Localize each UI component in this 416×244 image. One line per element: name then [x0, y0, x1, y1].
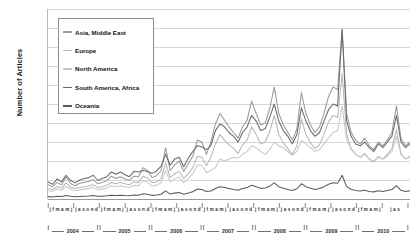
month-group-4: j f m a m j	[152, 203, 176, 215]
gridline-0	[48, 199, 410, 200]
month-axis-separator: |	[407, 203, 409, 215]
month-group-10: j f m a m j	[306, 203, 330, 215]
month-group-11: j a s o n d	[332, 203, 356, 215]
month-group-0: j f m a m j	[49, 203, 73, 215]
legend-swatch-icon	[63, 87, 72, 89]
legend-label: North America	[75, 65, 117, 72]
year-rule	[155, 231, 167, 232]
month-group-7: j a s o n d	[229, 203, 253, 215]
legend-label: Asia, Middle East	[75, 29, 126, 36]
year-rule	[237, 231, 249, 232]
year-label: 2009	[324, 228, 338, 234]
year-rule	[340, 231, 352, 232]
month-group-1: j a s o n d	[75, 203, 99, 215]
legend-swatch-icon	[63, 68, 72, 70]
year-rule	[207, 231, 219, 232]
year-label: 2005	[118, 228, 132, 234]
year-rule	[52, 231, 64, 232]
legend-swatch-icon	[63, 50, 72, 52]
year-label: 2007	[221, 228, 235, 234]
legend-item-2[interactable]: North America	[59, 60, 153, 78]
year-rule	[82, 231, 94, 232]
year-cell-2006: 2006	[153, 224, 200, 238]
year-label: 2006	[169, 228, 183, 234]
year-cell-2009: 2009	[308, 224, 355, 238]
month-group-2: j f m a m j	[100, 203, 124, 215]
legend-item-3[interactable]: South America, Africa	[59, 78, 153, 96]
year-rule	[392, 231, 404, 232]
legend-label: Oceania	[75, 102, 99, 109]
year-rule	[258, 231, 270, 232]
year-cell-2004: 2004	[50, 224, 97, 238]
year-label: 2008	[273, 228, 287, 234]
year-rule	[289, 231, 301, 232]
year-rule	[310, 231, 322, 232]
year-label: 2010	[376, 228, 390, 234]
year-axis: |2004||2005||2006||2007||2008||2009||201…	[47, 224, 409, 238]
year-label: 2004	[66, 228, 80, 234]
month-group-13: j a s	[383, 203, 407, 215]
year-rule	[103, 231, 115, 232]
month-group-9: j a s o n d	[280, 203, 304, 215]
month-group-6: j f m a m j	[203, 203, 227, 215]
month-group-5: j a s o n d	[178, 203, 202, 215]
year-cell-2010: 2010	[360, 224, 407, 238]
year-rule	[134, 231, 146, 232]
legend: Asia, Middle EastEuropeNorth AmericaSout…	[58, 18, 154, 114]
legend-label: South America, Africa	[75, 84, 139, 91]
year-rule	[362, 231, 374, 232]
y-axis-title: Number of Articles	[15, 28, 24, 138]
year-cell-2005: 2005	[101, 224, 148, 238]
legend-item-4[interactable]: Oceania	[59, 97, 153, 115]
legend-item-1[interactable]: Europe	[59, 41, 153, 59]
month-axis: |j f m a m j|j a s o n d|j f m a m j|j a…	[47, 203, 409, 215]
month-group-12: j f m a m j	[358, 203, 382, 215]
legend-swatch-icon	[63, 105, 72, 107]
chart-figure: Number of Articles 020040060080010001200…	[0, 0, 416, 244]
year-axis-separator: |	[407, 224, 410, 238]
legend-swatch-icon	[63, 31, 72, 33]
legend-item-0[interactable]: Asia, Middle East	[59, 23, 153, 41]
legend-label: Europe	[75, 47, 96, 54]
year-cell-2007: 2007	[205, 224, 252, 238]
month-group-8: j f m a m j	[255, 203, 279, 215]
month-group-3: j a s o n d	[126, 203, 150, 215]
year-rule	[185, 231, 197, 232]
year-cell-2008: 2008	[256, 224, 303, 238]
